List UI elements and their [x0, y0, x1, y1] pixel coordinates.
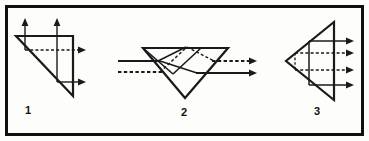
panel-2-label: 2 [181, 106, 187, 118]
panel-3-label: 3 [314, 105, 320, 117]
panel-1-label: 1 [25, 104, 31, 116]
ray-diagram-svg: 1 2 [0, 0, 369, 141]
figure-background [0, 0, 369, 141]
figure-frame: 1 2 [0, 0, 369, 141]
